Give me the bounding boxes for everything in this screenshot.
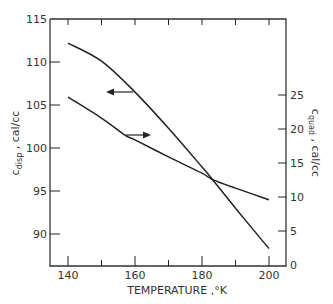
y-left-tick-label: 95	[33, 185, 47, 198]
y-left-tick-label: 100	[26, 142, 47, 155]
data-curves	[68, 43, 269, 249]
x-axis-title: TEMPERATURE ,°K	[126, 284, 227, 297]
axis-ticks	[50, 19, 286, 266]
y-axis-right-title: cquad , cal/cc	[307, 109, 322, 177]
y-axis-left-title: cdisp , cal/cc	[9, 111, 24, 176]
chart: 14016018020090951001051101150510152025 T…	[0, 0, 333, 304]
y-right-tick-label: 10	[290, 191, 304, 204]
arrow-right-head-icon	[143, 132, 151, 139]
x-tick-label: 200	[259, 269, 280, 282]
y-right-tick-label: 15	[290, 157, 304, 170]
plot-border	[50, 19, 286, 266]
y-right-tick-label: 20	[290, 123, 304, 136]
y-left-tick-label: 105	[26, 99, 47, 112]
y-left-tick-label: 90	[33, 228, 47, 241]
axis-arrows	[106, 89, 151, 139]
curve-c-quad	[68, 97, 269, 200]
x-tick-label: 160	[125, 269, 146, 282]
y-right-tick-label: 25	[290, 89, 304, 102]
y-right-tick-label: 5	[290, 225, 297, 238]
y-left-tick-label: 110	[26, 56, 47, 69]
y-left-tick-label: 115	[26, 13, 47, 26]
arrow-left-head-icon	[106, 89, 114, 96]
y-right-tick-label: 0	[290, 259, 297, 272]
plot-frame	[50, 19, 286, 266]
x-tick-label: 180	[192, 269, 213, 282]
x-tick-label: 140	[58, 269, 79, 282]
curve-c-disp	[68, 43, 269, 249]
